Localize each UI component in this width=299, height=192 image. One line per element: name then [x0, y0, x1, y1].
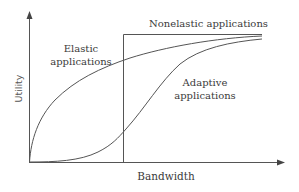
elastic-label-line2: applications [50, 55, 112, 68]
adaptive-label: Adaptive applications [174, 76, 236, 102]
x-axis-arrow-icon [277, 160, 285, 166]
x-axis-label: Bandwidth [131, 170, 201, 183]
y-axis-arrow-icon [27, 11, 33, 19]
y-axis [27, 11, 33, 162]
elastic-label: Elastic applications [50, 42, 112, 68]
elastic-label-line1: Elastic [50, 42, 112, 55]
adaptive-label-line1: Adaptive [174, 76, 236, 89]
nonelastic-label: Nonelastic applications [149, 17, 268, 30]
utility-bandwidth-diagram: Nonelastic applications Elastic applicat… [0, 0, 299, 192]
adaptive-label-line2: applications [174, 89, 236, 102]
y-axis-label: Utility [12, 69, 25, 109]
